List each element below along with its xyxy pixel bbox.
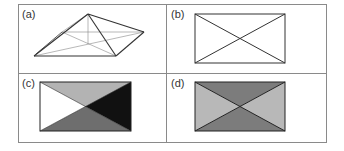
- panel-b-rectangle: [195, 14, 285, 63]
- panel-d-rectangle: [195, 82, 285, 131]
- panel-c-rectangle: [40, 82, 131, 131]
- figure-drawings: [0, 0, 344, 151]
- panel-a-pyramid: [34, 14, 144, 56]
